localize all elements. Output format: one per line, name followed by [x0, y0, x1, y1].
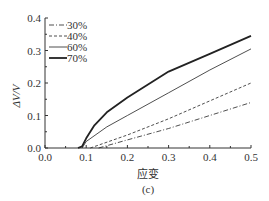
x-tick-label: 0.1: [79, 151, 93, 163]
series-lines: [78, 36, 251, 148]
x-tick-label: 0.2: [121, 151, 135, 163]
y-tick-label: 0.4: [27, 12, 41, 24]
x-tick-label: 0.5: [244, 151, 258, 163]
series-line-70pct: [78, 36, 251, 148]
x-tick-label: 0.4: [203, 151, 217, 163]
y-tick-label: 0.0: [27, 142, 41, 154]
line-chart: 0.00.10.20.30.40.50.00.10.20.30.4 30%40%…: [0, 0, 269, 201]
legend-label: 70%: [67, 52, 87, 64]
series-line-30pct: [99, 103, 251, 149]
y-tick-label: 0.2: [27, 77, 41, 89]
y-tick-label: 0.1: [27, 110, 41, 122]
figure-caption: (c): [142, 183, 155, 196]
series-line-60pct: [82, 49, 251, 148]
x-axis-label: 应变: [137, 167, 159, 180]
y-tick-label: 0.3: [27, 45, 41, 57]
series-line-40pct: [90, 83, 251, 148]
x-tick-label: 0.3: [162, 151, 176, 163]
y-axis-label: ΔV/V: [10, 83, 22, 108]
legend: 30%40%60%70%: [49, 19, 87, 64]
